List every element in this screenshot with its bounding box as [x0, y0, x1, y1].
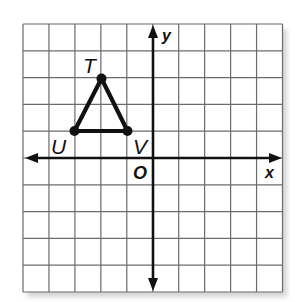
- vertex-t-point: [97, 74, 107, 84]
- vertex-u-point: [70, 126, 80, 136]
- origin-label: O: [133, 163, 147, 183]
- vertex-v-point: [123, 126, 133, 136]
- vertex-u-label: U: [51, 135, 67, 158]
- vertex-t-label: T: [83, 54, 98, 77]
- y-axis-label: y: [161, 27, 172, 44]
- coordinate-plane: y x O T U V: [0, 0, 296, 302]
- x-axis-label: x: [264, 164, 275, 181]
- vertex-v-label: V: [133, 135, 149, 158]
